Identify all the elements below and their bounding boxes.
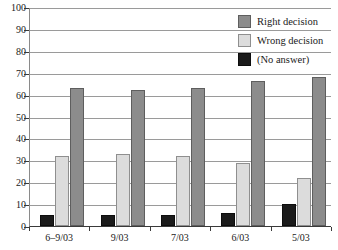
legend-swatch-icon — [238, 53, 251, 66]
y-axis-tick-label: 0 — [0, 222, 26, 232]
legend-item-label: (No answer) — [257, 54, 309, 66]
bar — [312, 77, 326, 226]
legend-item: Right decision — [238, 12, 323, 31]
x-axis-tick-mark — [89, 227, 90, 231]
legend-item: (No answer) — [238, 50, 323, 69]
x-axis-tick-label: 6/03 — [210, 232, 270, 244]
x-axis-tick-label: 7/03 — [150, 232, 210, 244]
y-axis-tick-label: 80 — [0, 47, 26, 57]
x-axis-tick-mark — [210, 227, 211, 231]
bar — [55, 156, 69, 226]
chart-legend: Right decisionWrong decision(No answer) — [238, 12, 323, 69]
bar-group — [161, 8, 205, 226]
legend-item-label: Wrong decision — [257, 35, 323, 47]
y-axis-tick-label: 10 — [0, 200, 26, 210]
y-axis-tick-mark — [24, 96, 29, 97]
bar — [101, 215, 115, 226]
bar — [176, 156, 190, 226]
x-axis-tick-mark — [29, 227, 30, 231]
y-axis-tick-label: 20 — [0, 178, 26, 188]
y-axis-tick-mark — [24, 205, 29, 206]
bar — [297, 178, 311, 226]
bar — [236, 163, 250, 227]
y-axis-tick-mark — [24, 161, 29, 162]
x-axis-tick-label: 9/03 — [89, 232, 149, 244]
y-axis-tick-mark — [24, 8, 29, 9]
y-axis-tick-mark — [24, 183, 29, 184]
bar — [40, 215, 54, 226]
bar — [70, 88, 84, 226]
bar-group — [101, 8, 145, 226]
bar — [161, 215, 175, 226]
x-axis-tick-mark — [150, 227, 151, 231]
x-axis-tick-mark — [331, 227, 332, 231]
x-axis-tick-label: 5/03 — [271, 232, 331, 244]
y-axis-tick-mark — [24, 139, 29, 140]
y-axis-tick-mark — [24, 52, 29, 53]
y-axis-tick-label: 40 — [0, 134, 26, 144]
bar — [191, 88, 205, 226]
legend-item-label: Right decision — [257, 16, 318, 28]
y-axis-tick-mark — [24, 74, 29, 75]
bar — [116, 154, 130, 226]
bar — [221, 213, 235, 226]
bar — [131, 90, 145, 226]
legend-item: Wrong decision — [238, 31, 323, 50]
legend-swatch-icon — [238, 15, 251, 28]
x-axis-tick-mark — [271, 227, 272, 231]
y-axis-tick-label: 90 — [0, 25, 26, 35]
bar-chart: Right decisionWrong decision(No answer) … — [0, 0, 338, 250]
legend-swatch-icon — [238, 34, 251, 47]
y-axis-tick-label: 60 — [0, 91, 26, 101]
y-axis-tick-label: 50 — [0, 113, 26, 123]
bar — [251, 81, 265, 226]
x-axis-tick-label: 6–9/03 — [29, 232, 89, 244]
y-axis-tick-label: 70 — [0, 69, 26, 79]
bar-group — [40, 8, 84, 226]
y-axis-tick-label: 30 — [0, 156, 26, 166]
y-axis-tick-mark — [24, 118, 29, 119]
y-axis-tick-mark — [24, 30, 29, 31]
y-axis-tick-label: 100 — [0, 3, 26, 13]
bar — [282, 204, 296, 226]
